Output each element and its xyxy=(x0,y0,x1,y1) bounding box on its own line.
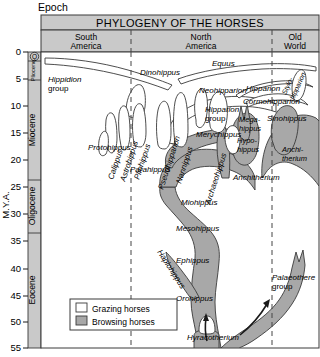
y-tick-35: 35 xyxy=(10,235,28,246)
taxon-label-equus: Equus xyxy=(212,59,235,68)
taxon-label-anchitherium-line2: therium xyxy=(282,154,307,163)
y-tick-label-15: 15 xyxy=(10,127,21,138)
y-tick-25: 25 xyxy=(10,181,28,192)
epoch-label-oligocene: Oligocene xyxy=(27,186,37,225)
taxon-label-orohippus: Orohippus xyxy=(176,294,213,303)
taxon-label-parahippus: Parahippus xyxy=(130,165,170,174)
region-label-south-america-line1: South xyxy=(75,32,97,42)
taxon-label-epihippus: Ephippus xyxy=(176,256,209,265)
y-tick-label-0: 0 xyxy=(16,46,21,57)
y-axis: M.Y.A. 0 5 10 15 20 25 30 xyxy=(0,46,28,353)
taxon-label-hypohippus-line2: hippus xyxy=(237,145,259,154)
taxon-label-merychippus: Merychippus xyxy=(196,130,241,139)
y-tick-label-10: 10 xyxy=(10,100,21,111)
y-tick-40: 40 xyxy=(10,263,28,274)
taxon-label-neohipparion: Neohipparion xyxy=(199,86,247,95)
taxon-label-megahippus-line2: hippus xyxy=(239,124,261,133)
region-label-old-world-line1: Old xyxy=(288,32,302,42)
taxon-label-dinohippus: Dinohippus xyxy=(140,68,180,77)
y-tick-30: 30 xyxy=(10,208,28,219)
taxon-label-miohippus: Miohippus xyxy=(181,198,217,207)
legend-label-grazing: Grazing horses xyxy=(92,304,150,314)
taxon-label-palaeothere-line1: Palaeothere xyxy=(272,273,316,282)
taxon-label-hippidion-line1: Hippidion xyxy=(48,75,82,84)
taxon-label-hipparion-group-line1: Hipparion xyxy=(205,105,240,114)
taxon-label-anchitherium-line1: Anchi- xyxy=(281,145,304,154)
region-label-old-world-line2: World xyxy=(284,41,306,51)
epoch-label-eocene: Eocene xyxy=(27,275,37,304)
y-tick-20: 20 xyxy=(10,154,28,165)
branch-pseudhipparion xyxy=(157,101,172,149)
y-tick-55: 55 xyxy=(10,342,28,353)
y-tick-10: 10 xyxy=(10,100,28,111)
taxon-label-cormohipparion: Cormohipparion xyxy=(243,97,300,106)
taxon-label-protohippus: Protohippus xyxy=(88,143,131,152)
epoch-label-miocene: Miocene xyxy=(27,114,37,147)
taxon-label-mesohippus: Mesohippus xyxy=(176,224,219,233)
phylogeny-figure: Epoch PHYLOGENY OF THE HORSES South Amer… xyxy=(0,0,320,357)
taxon-label-hyracotherium: Hyracotherium xyxy=(187,333,239,342)
y-tick-label-35: 35 xyxy=(10,235,21,246)
branch-pliohippus xyxy=(133,104,147,147)
y-tick-0: 0 xyxy=(16,46,28,57)
y-tick-label-5: 5 xyxy=(16,73,21,84)
taxon-label-sinohippus: Sinohippus xyxy=(267,114,307,123)
legend-label-browsing: Browsing horses xyxy=(92,317,155,327)
y-tick-50: 50 xyxy=(10,316,28,327)
taxon-label-hipparion-group-line2: group xyxy=(205,114,226,123)
y-tick-45: 45 xyxy=(10,290,28,301)
region-label-south-america-line2: America xyxy=(70,41,101,51)
taxon-label-hipparion-oldworld: Hipparion xyxy=(246,84,281,93)
y-tick-label-30: 30 xyxy=(10,208,21,219)
y-tick-label-20: 20 xyxy=(10,154,21,165)
y-tick-5: 5 xyxy=(16,73,28,84)
taxon-label-hypohippus-line1: Hypo- xyxy=(237,136,258,145)
phylogeny-svg: Epoch PHYLOGENY OF THE HORSES South Amer… xyxy=(0,0,320,357)
taxon-label-hippidion-line2: group xyxy=(48,84,69,93)
epoch-label-pliocene: Pliocene xyxy=(30,60,36,81)
y-tick-label-50: 50 xyxy=(10,316,21,327)
legend-swatch-browsing xyxy=(76,316,87,325)
taxon-label-megahippus-line1: Mega- xyxy=(239,115,261,124)
y-axis-label: M.Y.A. xyxy=(0,191,11,218)
y-tick-label-40: 40 xyxy=(10,263,21,274)
legend: Grazing horses Browsing horses xyxy=(70,299,177,330)
y-tick-label-55: 55 xyxy=(10,342,21,353)
epoch-header-label: Epoch xyxy=(38,1,68,13)
region-label-north-america-line1: North xyxy=(191,32,212,42)
y-tick-label-45: 45 xyxy=(10,290,21,301)
taxon-label-palaeothere-line2: group xyxy=(272,282,293,291)
y-tick-15: 15 xyxy=(10,127,28,138)
legend-swatch-grazing xyxy=(76,303,87,312)
figure-title: PHYLOGENY OF THE HORSES xyxy=(96,17,264,29)
y-tick-label-25: 25 xyxy=(10,181,21,192)
region-label-north-america-line2: America xyxy=(185,41,216,51)
taxon-label-anchitherium: Anchitherium xyxy=(232,173,280,182)
